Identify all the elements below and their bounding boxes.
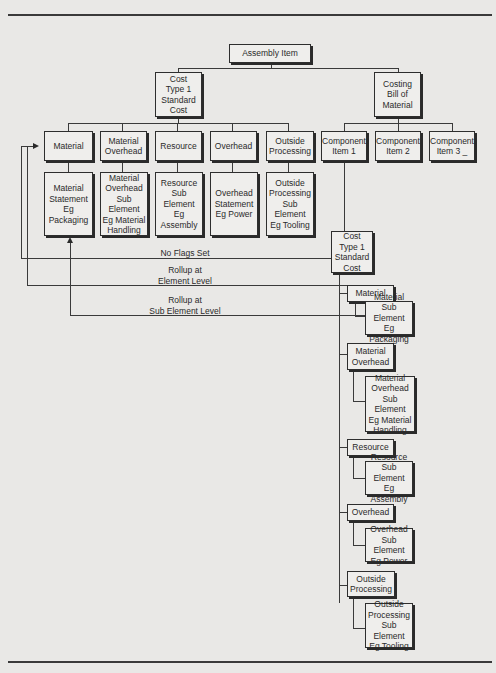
connector bbox=[232, 123, 233, 131]
flow-no-flags bbox=[21, 146, 22, 259]
connector bbox=[177, 160, 178, 172]
top-rule bbox=[8, 14, 492, 16]
connector bbox=[353, 478, 365, 479]
comp-element-material-overhead: Material Overhead bbox=[347, 343, 394, 370]
connector bbox=[339, 293, 347, 294]
connector bbox=[178, 68, 399, 69]
component-item-2: Component Item 2 bbox=[375, 131, 421, 161]
element-overhead: Overhead bbox=[210, 131, 257, 161]
sub-element-outside-processing: Outside Processing Sub Element Eg Toolin… bbox=[266, 172, 314, 236]
connector bbox=[339, 354, 347, 355]
costing-bom-box: Costing Bill of Material bbox=[374, 72, 421, 117]
label-rollup-sub-element: Rollup at Sub Element Level bbox=[140, 295, 230, 316]
cost-type-box: Cost Type 1 Standard Cost bbox=[155, 72, 202, 117]
comp-sub-element-material: Material Sub Element Eg Packaging bbox=[365, 301, 413, 335]
connector bbox=[122, 123, 123, 131]
element-material-overhead: Material Overhead bbox=[100, 131, 147, 161]
comp-sub-element-overhead: Overhead Sub Element Eg Power bbox=[365, 528, 413, 562]
connector bbox=[122, 160, 123, 172]
connector bbox=[452, 123, 453, 131]
connector bbox=[353, 545, 365, 546]
comp-sub-element-resource: Resource Sub Element Eg Assembly bbox=[365, 461, 413, 495]
connector bbox=[68, 123, 69, 131]
connector bbox=[288, 160, 289, 172]
component-cost-type-box: Cost Type 1 Standard Cost bbox=[331, 231, 373, 273]
label-no-flags: No Flags Set bbox=[140, 248, 230, 259]
comp-sub-element-material-overhead: Material Overhead Sub Element Eg Materia… bbox=[365, 376, 415, 432]
sub-element-material-overhead: Material Overhead Sub Element Eg Materia… bbox=[100, 172, 148, 236]
connector bbox=[68, 123, 289, 124]
connector bbox=[353, 628, 365, 629]
element-outside-processing: Outside Processing bbox=[266, 131, 314, 161]
comp-element-outside-processing: Outside Processing bbox=[347, 571, 395, 597]
sub-element-material: Material Statement Eg Packaging bbox=[44, 172, 93, 236]
flow-rollup-element bbox=[27, 146, 28, 286]
connector bbox=[355, 316, 365, 317]
element-material: Material bbox=[44, 131, 93, 161]
connector bbox=[177, 123, 178, 131]
element-resource: Resource bbox=[155, 131, 202, 161]
connector bbox=[353, 401, 365, 402]
connector bbox=[288, 123, 289, 131]
connector bbox=[232, 160, 233, 172]
sub-element-overhead: Overhead Statement Eg Power bbox=[210, 172, 258, 236]
connector bbox=[344, 123, 345, 131]
comp-element-overhead: Overhead bbox=[347, 504, 394, 521]
connector bbox=[339, 447, 347, 448]
connector bbox=[398, 123, 399, 131]
comp-sub-element-outside-processing: Outside Processing Sub Element Eg Toolin… bbox=[365, 603, 413, 648]
arrow-up-icon bbox=[67, 237, 73, 243]
arrow-right-icon bbox=[33, 143, 39, 149]
flow-rollup-sub-element bbox=[70, 242, 71, 316]
assembly-item-box: Assembly Item bbox=[229, 44, 311, 63]
component-item-3: Component Item 3 _ bbox=[429, 131, 475, 161]
connector bbox=[339, 585, 347, 586]
component-item-1: Component Item 1 bbox=[321, 131, 367, 161]
sub-element-resource: Resource Sub Element Eg Assembly bbox=[155, 172, 203, 236]
connector bbox=[353, 521, 354, 546]
connector bbox=[344, 160, 345, 231]
connector bbox=[353, 456, 354, 479]
connector bbox=[353, 370, 354, 402]
connector bbox=[339, 512, 347, 513]
label-rollup-element: Rollup at Element Level bbox=[140, 265, 230, 286]
connector bbox=[339, 273, 340, 603]
bottom-rule bbox=[8, 661, 492, 663]
connector bbox=[68, 160, 69, 172]
connector bbox=[353, 596, 354, 629]
